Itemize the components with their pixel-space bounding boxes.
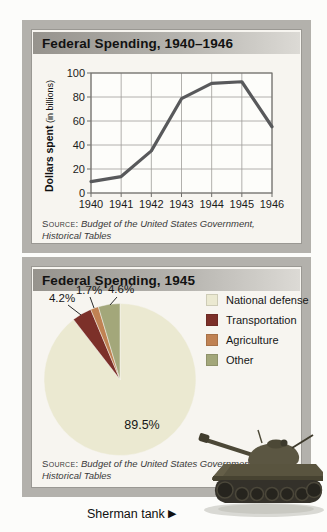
y-tick-label: 60 xyxy=(33,115,85,127)
line-chart-card: Federal Spending, 1940–1946 Dollars spen… xyxy=(22,20,311,253)
tank-turret-icon xyxy=(248,430,313,466)
legend-label: Other xyxy=(226,354,254,366)
legend-item: Other xyxy=(206,354,309,366)
x-tick-label: 1943 xyxy=(165,198,199,210)
pie-percentage-label: 1.7% xyxy=(76,284,102,296)
textbook-figure-page: Federal Spending, 1940–1946 Dollars spen… xyxy=(0,0,327,532)
source-label: Source: xyxy=(42,218,78,229)
y-tick-label: 80 xyxy=(33,91,85,103)
legend-swatch-icon xyxy=(206,354,218,366)
line-chart xyxy=(32,30,303,244)
right-arrow-icon: ▶ xyxy=(168,507,176,519)
x-tick-label: 1946 xyxy=(255,198,289,210)
source-text: Budget of the United States Government, xyxy=(78,218,254,229)
legend-swatch-icon xyxy=(206,294,218,306)
legend-item: Agriculture xyxy=(206,334,309,346)
x-tick-label: 1940 xyxy=(74,198,108,210)
pie-percentage-label: 4.6% xyxy=(108,283,134,295)
legend-swatch-icon xyxy=(206,334,218,346)
legend-swatch-icon xyxy=(206,314,218,326)
sherman-tank-image xyxy=(192,418,327,520)
source-text-line2: Historical Tables xyxy=(42,230,111,241)
tank-barrel-icon xyxy=(198,433,256,456)
legend-label: Transportation xyxy=(226,314,297,326)
tank-tracks-icon xyxy=(215,480,322,503)
pie-chart-legend: National defenseTransportationAgricultur… xyxy=(206,294,309,374)
x-tick-label: 1941 xyxy=(104,198,138,210)
legend-label: National defense xyxy=(226,294,309,306)
source-label: Source: xyxy=(42,458,78,469)
source-text-line2: Historical Tables xyxy=(42,470,111,481)
y-tick-label: 20 xyxy=(33,163,85,175)
y-tick-label: 40 xyxy=(33,139,85,151)
line-chart-panel: Federal Spending, 1940–1946 Dollars spen… xyxy=(31,29,302,244)
tank-hull-icon xyxy=(212,464,323,481)
x-tick-label: 1942 xyxy=(134,198,168,210)
pie-percentage-label: 89.5% xyxy=(124,418,159,432)
legend-label: Agriculture xyxy=(226,334,279,346)
x-tick-label: 1945 xyxy=(225,198,259,210)
sherman-tank-caption: Sherman tank ▶ xyxy=(87,507,176,521)
legend-item: Transportation xyxy=(206,314,309,326)
legend-item: National defense xyxy=(206,294,309,306)
x-tick-label: 1944 xyxy=(195,198,229,210)
y-tick-label: 100 xyxy=(33,67,85,79)
pie-percentage-label: 4.2% xyxy=(49,292,75,304)
